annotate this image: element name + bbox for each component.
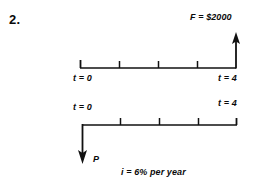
- diagram-canvas: [0, 0, 278, 185]
- timeline-top-end-label: t = 4: [218, 74, 237, 83]
- problem-number: 2.: [9, 13, 20, 26]
- future-worth-label: F = $2000: [190, 13, 232, 22]
- timeline-bottom-start-label: t = 0: [73, 103, 92, 112]
- timeline-top: [80, 60, 236, 68]
- timeline-bottom: [82, 118, 237, 125]
- arrow-down-present-worth: [78, 124, 87, 164]
- arrow-up-future-worth: [232, 32, 240, 69]
- timeline-top-start-label: t = 0: [73, 74, 92, 83]
- timeline-bottom-end-label: t = 4: [218, 99, 237, 108]
- present-worth-label: P: [93, 155, 99, 164]
- interest-rate-note: i = 6% per year: [121, 168, 186, 177]
- cashflow-diagram-figure: 2. F = $2000 t = 0 t = 4 t = 0 t = 4 P i…: [0, 0, 278, 185]
